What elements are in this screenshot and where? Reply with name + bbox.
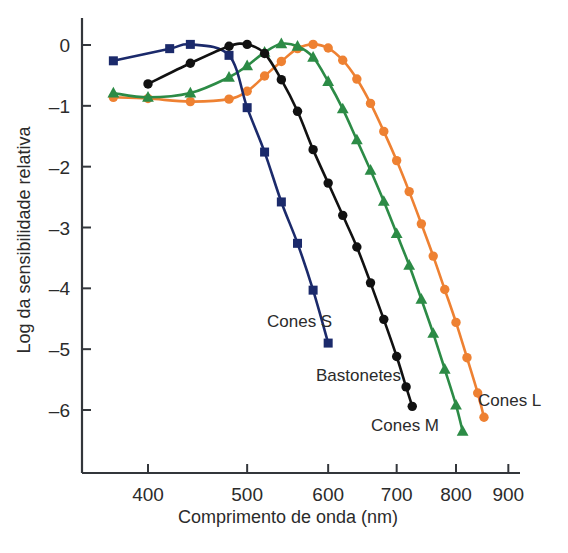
data-marker-square bbox=[293, 239, 302, 248]
data-marker-square bbox=[309, 286, 318, 295]
data-marker-circle bbox=[186, 97, 195, 106]
data-marker-triangle bbox=[415, 293, 427, 304]
data-marker-circle bbox=[186, 59, 195, 68]
data-marker-square bbox=[260, 148, 269, 157]
series-cones-s bbox=[109, 40, 333, 348]
data-marker-circle bbox=[401, 382, 410, 391]
series-annotation: Cones M bbox=[371, 416, 439, 435]
series-layer bbox=[107, 38, 488, 436]
annotation-layer: Cones SBastonetesCones LCones M bbox=[267, 312, 541, 435]
y-tick-label: –5 bbox=[49, 339, 70, 360]
data-marker-triangle bbox=[337, 103, 349, 114]
data-marker-circle bbox=[338, 211, 347, 220]
data-marker-triangle bbox=[351, 134, 363, 145]
series-cones-m bbox=[107, 38, 468, 436]
data-marker-triangle bbox=[403, 259, 415, 270]
data-marker-circle bbox=[479, 413, 488, 422]
data-marker-triangle bbox=[427, 327, 439, 338]
series-line bbox=[113, 44, 484, 417]
sensitivity-log-plot: 0–1–2–3–4–5–6 400500600700800900 Cones S… bbox=[0, 0, 568, 553]
data-marker-circle bbox=[366, 99, 375, 108]
data-marker-circle bbox=[338, 56, 347, 65]
data-marker-circle bbox=[352, 242, 361, 251]
data-marker-circle bbox=[440, 285, 449, 294]
data-marker-square bbox=[277, 197, 286, 206]
data-marker-triangle bbox=[457, 425, 469, 436]
x-tick-label: 500 bbox=[231, 484, 263, 505]
data-marker-circle bbox=[462, 353, 471, 362]
data-marker-triangle bbox=[378, 195, 390, 206]
data-marker-circle bbox=[323, 43, 332, 52]
y-tick-label: –3 bbox=[49, 218, 70, 239]
data-marker-circle bbox=[308, 145, 317, 154]
y-tick-label: –2 bbox=[49, 157, 70, 178]
data-marker-circle bbox=[224, 42, 233, 51]
data-marker-circle bbox=[352, 74, 361, 83]
y-tick-label: 0 bbox=[59, 35, 70, 56]
data-marker-square bbox=[186, 40, 195, 49]
x-axis-group: 400500600700800900 bbox=[82, 464, 524, 505]
y-axis-group: 0–1–2–3–4–5–6 bbox=[49, 18, 91, 473]
data-marker-circle bbox=[366, 278, 375, 287]
data-marker-triangle bbox=[450, 399, 462, 410]
data-marker-circle bbox=[260, 49, 269, 58]
y-tick-label: –1 bbox=[49, 96, 70, 117]
data-marker-triangle bbox=[322, 75, 334, 86]
series-annotation: Cones L bbox=[478, 391, 541, 410]
x-axis-title: Comprimento de onda (nm) bbox=[178, 507, 398, 527]
x-tick-label: 900 bbox=[492, 484, 524, 505]
x-tick-group bbox=[148, 464, 508, 473]
data-marker-triangle bbox=[365, 164, 377, 175]
y-tick-label: –4 bbox=[49, 278, 71, 299]
data-marker-circle bbox=[260, 71, 269, 80]
data-marker-triangle bbox=[439, 363, 451, 374]
series-line bbox=[113, 44, 328, 343]
data-marker-circle bbox=[242, 40, 251, 49]
x-tick-label: 600 bbox=[312, 484, 344, 505]
data-marker-circle bbox=[224, 94, 233, 103]
data-marker-circle bbox=[293, 107, 302, 116]
data-marker-circle bbox=[392, 156, 401, 165]
data-marker-circle bbox=[451, 318, 460, 327]
data-marker-circle bbox=[308, 40, 317, 49]
data-marker-circle bbox=[429, 251, 438, 260]
data-marker-circle bbox=[404, 187, 413, 196]
data-marker-triangle bbox=[107, 87, 119, 98]
y-tick-group bbox=[82, 45, 91, 410]
data-marker-circle bbox=[277, 75, 286, 84]
y-axis-title: Log da sensibilidade relativa bbox=[14, 125, 34, 353]
series-line bbox=[113, 43, 462, 431]
x-tick-label: 700 bbox=[381, 484, 413, 505]
y-tick-label: –6 bbox=[49, 400, 70, 421]
data-marker-square bbox=[165, 44, 174, 53]
series-annotation: Cones S bbox=[267, 312, 332, 331]
data-marker-square bbox=[225, 51, 234, 60]
data-marker-circle bbox=[417, 219, 426, 228]
x-tick-label: 800 bbox=[440, 484, 472, 505]
data-marker-circle bbox=[143, 79, 152, 88]
data-marker-circle bbox=[408, 402, 417, 411]
x-tick-label-group: 400500600700800900 bbox=[132, 484, 524, 505]
data-marker-circle bbox=[277, 57, 286, 66]
data-marker-square bbox=[243, 103, 252, 112]
chart-figure: 0–1–2–3–4–5–6 400500600700800900 Cones S… bbox=[0, 0, 568, 553]
y-tick-label-group: 0–1–2–3–4–5–6 bbox=[49, 35, 71, 421]
data-marker-square bbox=[324, 339, 333, 348]
series-annotation: Bastonetes bbox=[316, 366, 401, 385]
x-tick-label: 400 bbox=[132, 484, 164, 505]
data-marker-circle bbox=[392, 352, 401, 361]
data-marker-circle bbox=[379, 315, 388, 324]
data-marker-triangle bbox=[391, 227, 403, 238]
data-marker-circle bbox=[323, 178, 332, 187]
data-marker-circle bbox=[379, 127, 388, 136]
data-marker-square bbox=[109, 56, 118, 65]
